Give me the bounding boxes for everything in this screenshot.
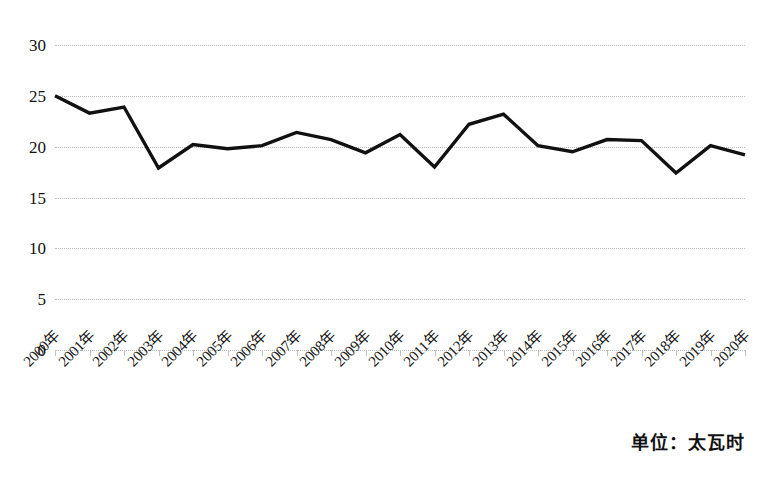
line-chart: 051015202530 2000年2001年2002年2003年2004年20… xyxy=(0,0,769,482)
x-tick-2010年 xyxy=(400,350,401,356)
y-tick-label-30: 30 xyxy=(29,37,46,54)
x-tick-2003年 xyxy=(159,350,160,356)
x-tick-2009年 xyxy=(366,350,367,356)
x-tick-2019年 xyxy=(711,350,712,356)
y-tick-label-15: 15 xyxy=(29,189,46,206)
unit-annotation: 单位：太瓦时 xyxy=(631,428,745,454)
y-tick-label-20: 20 xyxy=(29,138,46,155)
x-tick-2014年 xyxy=(538,350,539,356)
x-tick-2011年 xyxy=(435,350,436,356)
y-tick-label-5: 5 xyxy=(38,291,47,308)
x-tick-2001年 xyxy=(90,350,91,356)
x-tick-2016年 xyxy=(607,350,608,356)
x-tick-2004年 xyxy=(193,350,194,356)
x-tick-2007年 xyxy=(297,350,298,356)
series-line-group xyxy=(55,0,745,350)
x-tick-2017年 xyxy=(642,350,643,356)
plot-area: 051015202530 xyxy=(55,45,745,350)
x-tick-2012年 xyxy=(469,350,470,356)
x-tick-2013年 xyxy=(504,350,505,356)
x-tick-2018年 xyxy=(676,350,677,356)
x-tick-2006年 xyxy=(262,350,263,356)
x-tick-2005年 xyxy=(228,350,229,356)
x-tick-2000年 xyxy=(55,350,56,356)
series-line xyxy=(55,96,745,173)
x-tick-2002年 xyxy=(124,350,125,356)
x-tick-2015年 xyxy=(573,350,574,356)
x-tick-2008年 xyxy=(331,350,332,356)
y-tick-label-25: 25 xyxy=(29,87,46,104)
x-tick-2020年 xyxy=(745,350,746,356)
y-tick-label-10: 10 xyxy=(29,240,46,257)
